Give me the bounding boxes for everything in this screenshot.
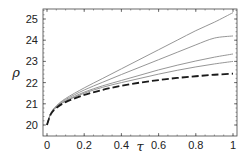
series-curve-1: [47, 13, 233, 125]
data-series: [47, 13, 233, 125]
y-tick-label: 20: [26, 119, 38, 131]
x-tick-label: 0.6: [151, 139, 166, 151]
plot-frame: [43, 9, 237, 136]
line-chart: 00.20.40.60.81 202122232425 τ ρ: [0, 0, 252, 153]
x-tick-label: 0: [44, 139, 50, 151]
x-tick-label: 1: [230, 139, 236, 151]
series-curve-2: [47, 36, 233, 125]
x-tick-label: 0.8: [188, 139, 203, 151]
y-tick-label: 25: [26, 13, 38, 25]
y-tick-label: 24: [26, 34, 38, 46]
x-axis-ticks: 00.20.40.60.81: [44, 9, 236, 151]
series-curve-5: [47, 74, 233, 125]
y-tick-label: 23: [26, 55, 38, 67]
y-tick-label: 21: [26, 98, 38, 110]
y-axis-label: ρ: [11, 65, 20, 80]
y-tick-label: 22: [26, 77, 38, 89]
x-tick-label: 0.2: [77, 139, 92, 151]
x-tick-label: 0.4: [114, 139, 129, 151]
series-curve-3: [47, 54, 233, 125]
x-axis-label: τ: [136, 139, 144, 153]
